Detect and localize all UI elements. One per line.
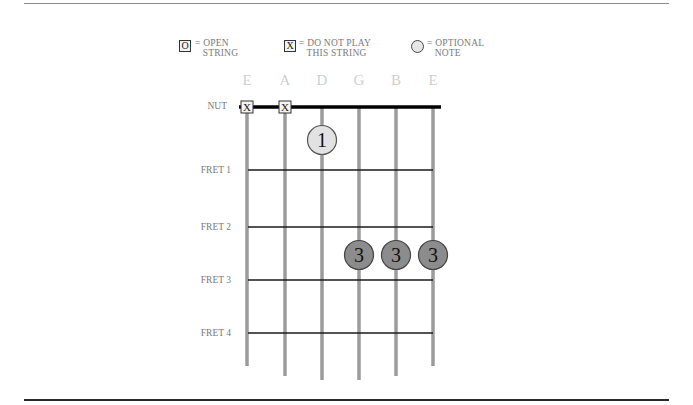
bottom-rule [24, 399, 669, 401]
svg-text:3: 3 [354, 244, 364, 266]
fretboard: X X 1 3 3 3 [0, 0, 693, 405]
svg-text:3: 3 [428, 244, 438, 266]
finger-note-g-string: 3 [345, 241, 374, 270]
mute-x-icon: X [281, 101, 289, 113]
mute-marker-a: X [279, 101, 291, 113]
finger-note-b-string: 3 [382, 241, 411, 270]
finger-note-high-e-string: 3 [419, 241, 448, 270]
svg-text:1: 1 [317, 129, 327, 151]
mute-x-icon: X [243, 101, 251, 113]
optional-note-d-string: 1 [308, 126, 337, 155]
svg-text:3: 3 [391, 244, 401, 266]
mute-marker-low-e: X [241, 101, 253, 113]
